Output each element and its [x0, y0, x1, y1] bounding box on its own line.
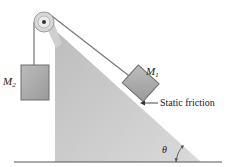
label-m2: M2	[2, 75, 16, 89]
label-theta: θ	[162, 144, 167, 155]
incline-plane	[55, 30, 201, 162]
block-m2	[21, 65, 49, 100]
label-static-friction: Static friction	[160, 97, 215, 108]
pulley	[34, 12, 54, 32]
incline-pulley-diagram: M2 M1 Static friction θ	[0, 0, 229, 167]
label-m1: M1	[145, 65, 159, 79]
